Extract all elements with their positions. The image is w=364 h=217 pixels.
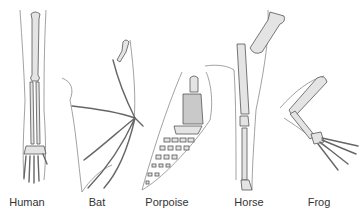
label-frog: Frog xyxy=(308,196,331,208)
horse-leg-drawing xyxy=(205,10,285,190)
frog-leg-drawing xyxy=(280,76,358,170)
bat-wing-drawing xyxy=(62,40,143,192)
human-arm-drawing xyxy=(20,10,47,183)
porpoise-flipper-drawing xyxy=(142,72,212,190)
label-porpoise: Porpoise xyxy=(145,196,188,208)
label-human: Human xyxy=(9,196,44,208)
limb-illustration xyxy=(0,0,364,217)
label-horse: Horse xyxy=(234,196,263,208)
label-bat: Bat xyxy=(89,196,106,208)
